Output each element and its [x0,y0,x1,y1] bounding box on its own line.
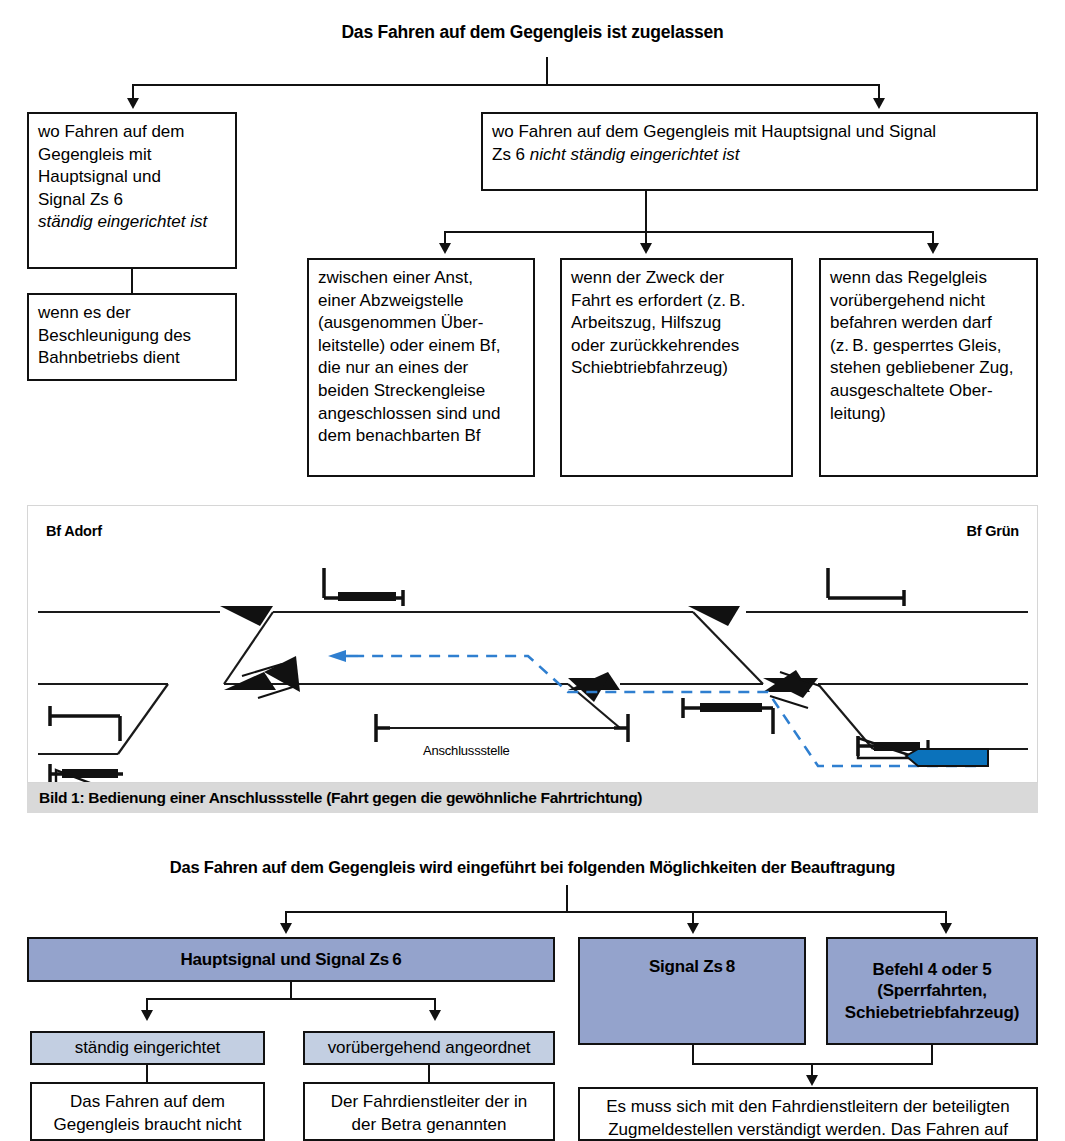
box-zweck-der-fahrt: wenn der Zweck der Fahrt es erfordert (z… [560,258,793,477]
box-line-prefix: Zs 6 [492,145,530,164]
bottom-branch-hline [285,911,947,913]
right-box-trunk [645,191,647,233]
box-line: wenn der Zweck der [571,267,782,290]
top-trunk-vline [546,57,548,86]
box-line: Zugmeldestellen verständigt werden. Das … [589,1119,1027,1141]
box-line: stehen gebliebener Zug, [830,357,1027,380]
left-box-connector [131,269,133,294]
box-leaf-voruebergehend: Der Fahrdienstleiter der in der Betra ge… [303,1082,555,1141]
box-line: wenn es der [38,302,226,325]
right-fan-arrow-2 [640,243,652,254]
bluebox-befehl-4-5: Befehl 4 oder 5 (Sperrfahrten, Schiebetr… [826,937,1038,1045]
bottom-branch-arrow-2 [687,923,699,934]
box-line: oder zurückkehrendes [571,335,782,358]
route-arrowhead [328,650,346,662]
box-line: dem benachbarten Bf [318,425,524,448]
box-line: beiden Streckengleise [318,380,524,403]
bottom-trunk-vline [566,885,568,913]
box-line: der Betra genannten [314,1114,544,1137]
lightblue-voruebergehend-angeordnet: vorübergehend angeordnet [303,1031,555,1065]
box-line: ausgeschaltete Ober- [830,380,1027,403]
figure-caption: Bild 1: Bedienung einer Anschlussstelle … [27,783,1038,813]
bluebox-label: Signal Zs 8 [649,956,735,977]
box-leaf-zugmeldestellen: Es muss sich mit den Fahrdienstleitern d… [578,1087,1038,1141]
box-leaf-staendig: Das Fahren auf dem Gegengleis braucht ni… [30,1082,265,1141]
staendig-connector [146,1065,148,1083]
box-line-italic: nicht ständig eingerichtet ist [530,145,740,164]
bottom-branch-arrow-1 [280,923,292,934]
box-line: zwischen einer Anst, [318,267,524,290]
box-line: (ausgenommen Über- [318,312,524,335]
box-beschleunigung: wenn es der Beschleunigung des Bahnbetri… [27,293,237,381]
bluebox-hauptsignal-zs6: Hauptsignal und Signal Zs 6 [27,937,555,982]
box-line-2: Zs 6 nicht ständig eingerichtet ist [492,144,1027,167]
lightblue-label: ständig eingerichtet [75,1038,220,1058]
top-branch-right-arrow [873,98,885,109]
box-line: leitstelle) oder einem Bf, [318,335,524,358]
box-line: (z. B. gesperrtes Gleis, [830,335,1027,358]
station-label-right: Bf Grün [966,523,1019,539]
box-line: wo Fahren auf dem [38,121,226,144]
box-line: Der Fahrdienstleiter der in [314,1091,544,1114]
box-zwischen-anst: zwischen einer Anst, einer Abzweigstelle… [307,258,535,477]
box-line: Gegengleis braucht nicht [41,1114,254,1137]
hauptsignal-fan-hline [146,998,436,1000]
box-line: wenn das Regelgleis [830,267,1027,290]
bluebox-label-line3: Schiebetriebfahrzeug) [845,1002,1019,1023]
lightblue-label: vorübergehend angeordnet [328,1038,531,1058]
box-line: Fahrt es erfordert (z. B. [571,290,782,313]
right-fan-arrow-1 [439,243,451,254]
zs8-down-vline [692,1045,694,1065]
box-regelgleis: wenn das Regelgleis vorübergehend nicht … [819,258,1038,477]
right-fan-hline [444,231,934,233]
lightblue-staendig-eingerichtet: ständig eingerichtet [30,1031,265,1065]
switch-levers [242,664,820,708]
box-line-italic: ständig eingerichtet ist [38,211,226,234]
box-line: Arbeitszug, Hilfszug [571,312,782,335]
train-icon [906,749,988,766]
box-line: Gegengleis mit [38,144,226,167]
switch-blades [220,606,818,702]
station-label-left: Bf Adorf [46,523,102,539]
top-chart-title: Das Fahren auf dem Gegengleis ist zugela… [0,22,1065,43]
track-lines [38,612,1028,754]
anschlussstelle-label: Anschlussstelle [423,743,510,758]
voruebergehend-connector [428,1065,430,1083]
figure-panel: Bf Adorf Bf Grün Anschlussstelle [27,505,1038,783]
box-line: Es muss sich mit den Fahrdienstleitern d… [589,1096,1027,1119]
box-line: Signal Zs 6 [38,189,226,212]
box-line: angeschlossen sind und [318,403,524,426]
box-line: Hauptsignal und [38,166,226,189]
bluebox-label-line1: Befehl 4 oder 5 [873,959,992,980]
box-nicht-staendig-eingerichtet: wo Fahren auf dem Gegengleis mit Hauptsi… [481,112,1038,191]
hauptsignal-fan-arrow-2 [429,1010,441,1021]
bluebox-signal-zs8: Signal Zs 8 [578,937,806,1045]
box-staendig-eingerichtet: wo Fahren auf dem Gegengleis mit Hauptsi… [27,112,237,269]
top-branch-left-arrow [127,98,139,109]
box-line: wo Fahren auf dem Gegengleis mit Hauptsi… [492,121,1027,144]
box-line: leitung) [830,403,1027,426]
box-line: Bahnbetriebs dient [38,347,226,370]
bottom-chart-title: Das Fahren auf dem Gegengleis wird einge… [0,858,1065,877]
befehl-down-vline [931,1045,933,1065]
box-line: die nur an eines der [318,357,524,380]
box-line: Schiebtriebfahrzeug) [571,357,782,380]
box-line: Das Fahren auf dem [41,1091,254,1114]
hauptsignal-fan-arrow-1 [141,1010,153,1021]
track-diagram [28,506,1037,782]
box-line: vorübergehend nicht [830,290,1027,313]
right-fan-arrow-3 [927,243,939,254]
bottom-branch-arrow-3 [940,923,952,934]
box-line: Beschleunigung des [38,325,226,348]
merge-arrow [806,1075,818,1086]
top-branch-hline [132,84,879,86]
bluebox-label-line2: (Sperrfahrten, [877,980,987,1001]
box-line: einer Abzweigstelle [318,290,524,313]
bluebox-label: Hauptsignal und Signal Zs 6 [181,949,402,970]
box-line: befahren werden darf [830,312,1027,335]
figure-caption-text: Bild 1: Bedienung einer Anschlussstelle … [39,789,642,807]
